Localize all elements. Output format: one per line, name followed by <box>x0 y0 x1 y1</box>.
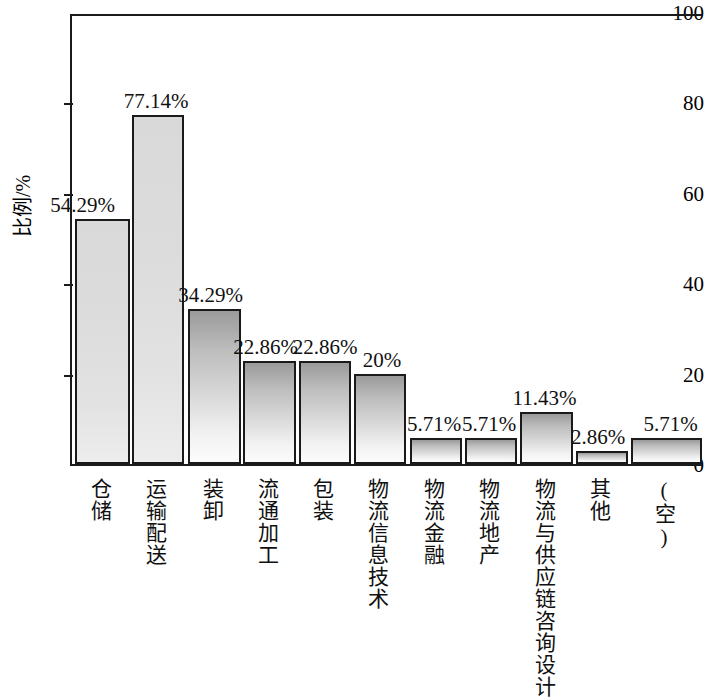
bar-value-label: 11.43% <box>490 388 599 409</box>
x-category-label: 物流金融 <box>422 478 443 566</box>
plot-area <box>70 14 702 466</box>
bar <box>299 361 351 464</box>
bar <box>465 438 517 464</box>
x-category-label: 包装 <box>311 478 332 522</box>
x-category-label: 仓储 <box>89 478 110 522</box>
bars-layer <box>72 16 702 464</box>
bar <box>75 219 130 464</box>
bar <box>576 451 628 464</box>
bar-value-label: 5.71% <box>607 414 704 435</box>
x-category-label: 物流与供应链咨询设计 <box>533 478 554 698</box>
x-category-label: 物流信息技术 <box>366 478 387 610</box>
x-category-label: 运输配送 <box>144 478 165 566</box>
bar-value-label: 5.71% <box>435 414 543 435</box>
x-category-label: 流通加工 <box>256 478 277 566</box>
bar-value-label: 54.29% <box>27 195 138 216</box>
x-category-label: 装卸 <box>201 478 222 522</box>
bar <box>243 361 296 464</box>
bar <box>410 438 462 464</box>
bar-value-label: 77.14% <box>102 91 210 112</box>
bar-value-label: 34.29% <box>156 285 265 306</box>
bar <box>188 309 241 464</box>
x-category-label: 其他 <box>588 478 609 522</box>
x-category-label: (空) <box>653 478 674 550</box>
x-category-label: 物流地产 <box>477 478 498 566</box>
bar-value-label: 20% <box>328 350 436 371</box>
